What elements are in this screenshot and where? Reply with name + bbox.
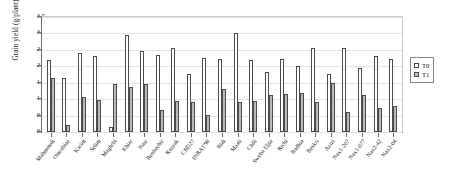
bar-group <box>168 17 184 132</box>
legend-swatch-t0-icon <box>414 63 419 68</box>
x-axis-tick-label: Bidi <box>216 138 227 150</box>
bar-t1[interactable] <box>393 106 397 132</box>
bar-t1[interactable] <box>269 95 273 132</box>
bar-t1[interactable] <box>238 102 242 132</box>
x-axis-tick-label: Badhia <box>289 138 304 155</box>
legend-item-t1[interactable]: T1 <box>414 70 429 79</box>
x-axis-label-cell: Nax2-42 <box>370 137 386 185</box>
bar-t1[interactable] <box>82 97 86 132</box>
bar-t1[interactable] <box>331 83 335 132</box>
legend-item-t0[interactable]: T0 <box>414 61 429 70</box>
x-axis-label-cell: Maghrbi <box>105 137 121 185</box>
bar-t1[interactable] <box>362 95 366 132</box>
bar-t1[interactable] <box>206 115 210 132</box>
bar-group <box>385 17 401 132</box>
y-axis-title: Grain yield (g/plant) <box>12 0 20 86</box>
x-axis-tick-label: Razzak <box>164 138 180 156</box>
bar-t1[interactable] <box>346 112 350 132</box>
x-axis-label-cell: Sweba Eljia <box>261 137 277 185</box>
x-axis-label-cell: Beskri <box>308 137 324 185</box>
x-axis-label-cell: Richi <box>276 137 292 185</box>
x-axis-label-cell: Nax1-207 <box>339 137 355 185</box>
bar-t1[interactable] <box>51 78 55 132</box>
x-axis-label-cell: Bidi <box>214 137 230 185</box>
bar-group <box>199 17 215 132</box>
x-axis-label-cell: Nax1-077 <box>354 137 370 185</box>
bar-group <box>370 17 386 132</box>
bar-group <box>276 17 292 132</box>
bar-t1[interactable] <box>97 100 101 132</box>
x-axis-label-cell: Maali <box>230 137 246 185</box>
bar-group <box>136 17 152 132</box>
bar-t1[interactable] <box>300 93 304 132</box>
legend-label-t0: T0 <box>422 61 429 70</box>
x-axis-label-cell: Benbechir <box>152 137 168 185</box>
bar-group <box>152 17 168 132</box>
x-axis-tick-label: Richi <box>276 138 289 152</box>
x-axis-label-cell: Selim <box>90 137 106 185</box>
x-axis-label-cell: Razzak <box>168 137 184 185</box>
x-axis-tick-label: Selim <box>89 138 102 153</box>
x-axis-label-cell: Khiar <box>121 137 137 185</box>
x-axis-tick-label: Chili <box>246 138 258 151</box>
grain-yield-bar-chart: Grain yield (g/plant) 0.00.51.01.52.02.5… <box>0 0 450 186</box>
x-axis-tick-label: Azizi <box>323 138 336 152</box>
bar-t1[interactable] <box>66 125 70 132</box>
x-axis-tick-label: Mahmoudi <box>35 138 56 162</box>
bar-group <box>214 17 230 132</box>
legend-swatch-t1-icon <box>414 72 419 77</box>
x-axis-tick-label: Nasr <box>137 138 149 151</box>
x-axis-label-cell: CBD27 <box>183 137 199 185</box>
bar-series-container <box>42 17 402 132</box>
bar-t1[interactable] <box>315 102 319 132</box>
bar-group <box>230 17 246 132</box>
x-axis-tick-label: Khiar <box>120 138 133 152</box>
x-axis-tick-labels: MahmoudiOmrabiaaKarimSelimMaghrbiKhiarNa… <box>42 137 402 185</box>
x-axis-tick-label: Karim <box>72 138 86 154</box>
bar-group <box>121 17 137 132</box>
x-axis-label-cell: Nax2-04 <box>385 137 401 185</box>
bar-t1[interactable] <box>378 108 382 132</box>
bar-t1[interactable] <box>284 94 288 132</box>
x-axis-label-cell: Karim <box>74 137 90 185</box>
bar-group <box>43 17 59 132</box>
x-axis-label-cell: Omrabiaa <box>59 137 75 185</box>
bar-t1[interactable] <box>191 102 195 132</box>
bar-t1[interactable] <box>113 84 117 132</box>
bar-group <box>59 17 75 132</box>
bar-t1[interactable] <box>129 87 133 132</box>
x-axis-tick-label: Beskri <box>306 138 320 154</box>
bar-group <box>90 17 106 132</box>
bar-t1[interactable] <box>222 89 226 132</box>
bar-group <box>308 17 324 132</box>
bar-group <box>292 17 308 132</box>
bar-t1[interactable] <box>160 110 164 132</box>
bar-t1[interactable] <box>175 101 179 132</box>
bar-group <box>74 17 90 132</box>
x-axis-label-cell: Azizi <box>323 137 339 185</box>
bar-group <box>354 17 370 132</box>
bar-group <box>261 17 277 132</box>
x-axis-label-cell: Badhia <box>292 137 308 185</box>
x-axis-tick-label: Maali <box>229 138 242 153</box>
bar-group <box>323 17 339 132</box>
legend-label-t1: T1 <box>422 70 429 79</box>
legend[interactable]: T0 T1 <box>410 57 434 83</box>
bar-group <box>339 17 355 132</box>
bar-t1[interactable] <box>144 84 148 132</box>
bar-group <box>183 17 199 132</box>
x-axis-label-cell: INRA1'98 <box>199 137 215 185</box>
bar-group <box>245 17 261 132</box>
bar-group <box>105 17 121 132</box>
bar-t1[interactable] <box>253 101 257 132</box>
x-axis-label-cell: Mahmoudi <box>43 137 59 185</box>
